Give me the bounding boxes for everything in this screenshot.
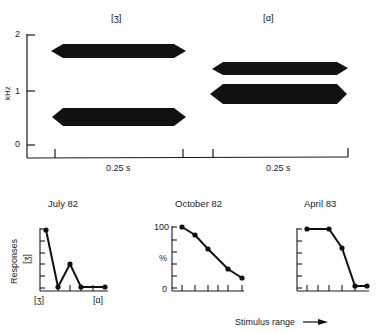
apr83-axes — [297, 228, 369, 291]
arrow-right-icon — [303, 319, 328, 325]
oct82-title: October 82 — [175, 198, 222, 209]
july82-points — [43, 227, 107, 289]
formant-f2-right — [212, 62, 348, 75]
apr83-points — [304, 226, 369, 288]
pct-axis-label: % — [159, 253, 167, 263]
formant-f1-left — [52, 108, 186, 126]
formant-f1-right — [210, 84, 347, 104]
oct82-axes — [172, 226, 244, 291]
apr83-title: April 83 — [304, 198, 336, 209]
oct82-line — [182, 227, 242, 278]
pct-0-label: 0 — [162, 284, 167, 294]
responses-axis-label: Responses — [9, 239, 19, 284]
apr83-line — [307, 229, 367, 286]
july82-line — [46, 230, 105, 287]
july82-axes — [40, 228, 108, 291]
pct-100-label: 100 — [154, 222, 169, 232]
x-label-right: [ɑ] — [93, 295, 103, 305]
x-label-left: [ʒ] — [34, 295, 44, 305]
figure-graphics — [0, 0, 379, 333]
formant-bars — [51, 44, 348, 126]
july82-title: July 82 — [48, 198, 78, 209]
formant-f2-left — [51, 44, 186, 58]
responses-phone-label: [ʒ] — [22, 254, 32, 264]
stimulus-range-label: Stimulus range — [235, 317, 295, 327]
